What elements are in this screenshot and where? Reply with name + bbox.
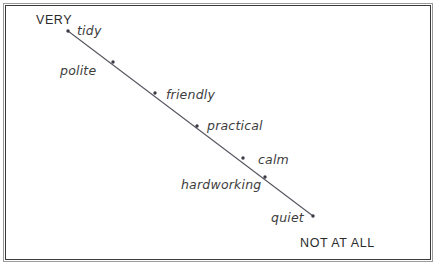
scale-anchor-high: VERY bbox=[36, 13, 72, 27]
scale-point-marker bbox=[241, 156, 244, 159]
scale-point-marker bbox=[111, 60, 114, 63]
trait-label-calm: calm bbox=[258, 152, 289, 167]
scale-point-marker bbox=[153, 91, 156, 94]
scale-anchor-low: NOT AT ALL bbox=[300, 236, 375, 250]
rating-scale-diagram: VERY NOT AT ALL tidypolitefriendlypracti… bbox=[0, 0, 438, 267]
trait-label-hardworking: hardworking bbox=[181, 177, 261, 192]
plot-area: VERY NOT AT ALL tidypolitefriendlypracti… bbox=[0, 0, 438, 267]
scale-point-marker bbox=[263, 175, 266, 178]
trait-label-quiet: quiet bbox=[271, 210, 304, 225]
trait-label-tidy: tidy bbox=[77, 23, 102, 38]
trait-label-friendly: friendly bbox=[166, 87, 215, 102]
scale-point-marker bbox=[195, 124, 198, 127]
scale-point-marker bbox=[66, 29, 69, 32]
trait-label-practical: practical bbox=[207, 118, 263, 133]
trait-label-polite: polite bbox=[60, 63, 96, 78]
scale-point-marker bbox=[311, 214, 314, 217]
trend-line-layer bbox=[0, 0, 438, 267]
